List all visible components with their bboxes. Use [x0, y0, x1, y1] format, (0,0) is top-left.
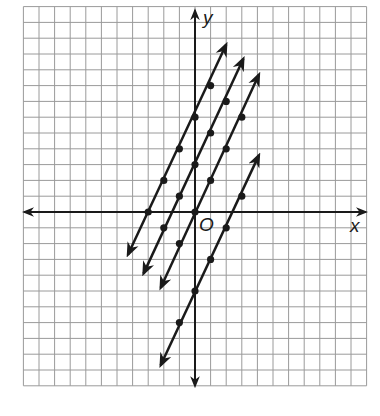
data-point: [223, 224, 230, 231]
data-point: [176, 240, 183, 247]
y-axis-label: y: [201, 7, 214, 28]
data-point: [207, 82, 214, 89]
lines: [128, 45, 259, 366]
origin-label: O: [199, 214, 214, 235]
data-point: [207, 177, 214, 184]
data-point: [176, 319, 183, 326]
data-point: [207, 129, 214, 136]
line-3: [161, 75, 259, 288]
data-point: [223, 145, 230, 152]
data-point: [176, 145, 183, 152]
data-point: [223, 98, 230, 105]
line-4: [161, 155, 259, 365]
data-point: [238, 193, 245, 200]
data-point: [191, 161, 198, 168]
x-axis-label: x: [349, 215, 361, 236]
data-point: [238, 114, 245, 121]
data-point: [160, 224, 167, 231]
data-point: [191, 287, 198, 294]
line-2: [144, 59, 244, 274]
data-point: [207, 256, 214, 263]
data-point: [145, 208, 152, 215]
axes: [24, 11, 365, 386]
data-point: [191, 208, 198, 215]
data-point: [191, 114, 198, 121]
data-point: [176, 193, 183, 200]
data-point: [160, 177, 167, 184]
coordinate-plane: y x O: [0, 0, 380, 416]
